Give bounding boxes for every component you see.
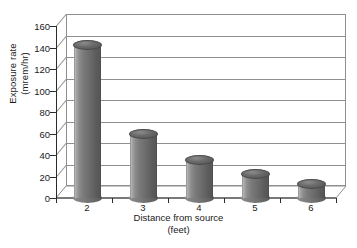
y-axis-tick-label: 100 — [34, 85, 50, 96]
y-axis-spine — [56, 26, 57, 198]
bar-body — [130, 134, 157, 199]
bar-top-ellipse — [129, 129, 158, 139]
y-axis-tick-label: 160 — [34, 21, 50, 32]
x-axis-tick — [336, 198, 337, 203]
bar-body — [186, 160, 213, 198]
bar-4 — [186, 160, 213, 198]
y-axis-tick-label: 20 — [39, 171, 50, 182]
y-axis-tick-label: 60 — [39, 128, 50, 139]
y-axis-tick-label: 120 — [34, 64, 50, 75]
x-axis-tick — [56, 198, 57, 203]
bar-2 — [74, 45, 101, 198]
plot-area — [56, 14, 346, 200]
y-axis-spine-back — [66, 14, 67, 186]
y-axis-tick-label: 40 — [39, 150, 50, 161]
x-axis-tick — [112, 198, 113, 203]
bar-body — [74, 45, 101, 198]
x-axis-tick — [224, 198, 225, 203]
x-axis-title-line2: (feet) — [0, 224, 357, 236]
bar-series — [56, 14, 346, 200]
x-axis-title-line1: Distance from source — [0, 212, 357, 224]
x-axis-tick — [280, 198, 281, 203]
bar-top-ellipse — [297, 179, 326, 189]
x-axis-tick — [168, 198, 169, 203]
exposure-rate-bar-chart: Exposure rate (mrem/hr) 0204060801001201… — [0, 0, 357, 248]
y-axis-tick-label: 140 — [34, 42, 50, 53]
bar-5 — [242, 174, 269, 198]
bar-3 — [130, 134, 157, 199]
y-axis-tick-label: 80 — [39, 107, 50, 118]
y-axis-title-line1: Exposure rate — [7, 4, 19, 144]
x-axis-title: Distance from source (feet) — [0, 212, 357, 236]
